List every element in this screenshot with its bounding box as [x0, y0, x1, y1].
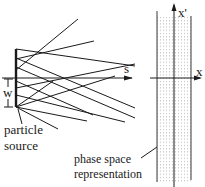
arrowhead-icon [124, 76, 133, 81]
beam-axis-label: s [124, 62, 129, 76]
x-prime-axis-label: x' [178, 6, 187, 20]
x-axis-label: x [196, 65, 203, 79]
source-label-line2: source [4, 139, 38, 153]
width-label: w [3, 86, 12, 100]
phase-space-caption-pointer [141, 147, 157, 158]
source-rays [16, 19, 135, 129]
source-label-line1: particle [4, 123, 43, 137]
phase-space-caption-line2: representation [74, 168, 142, 181]
arrowhead-icon [172, 3, 177, 11]
phase-space-caption-line1: phase space [74, 153, 131, 166]
